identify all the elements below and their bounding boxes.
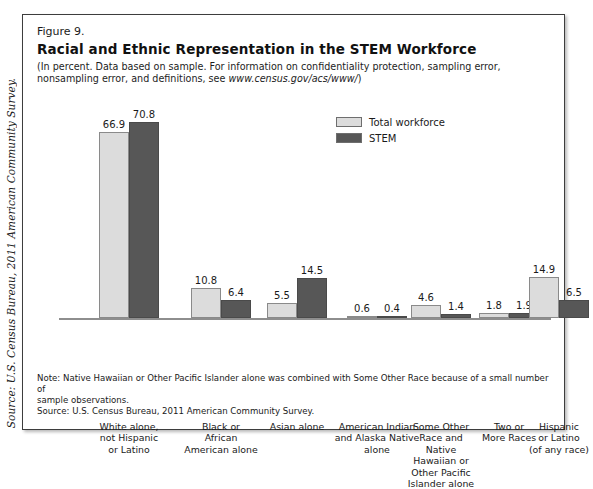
bar-value-label: 1.4 (448, 301, 464, 313)
x-axis-category-line: American alone (176, 444, 266, 455)
bar-group: 10.86.4 (191, 110, 251, 318)
figure-header: Figure 9. Racial and Ethnic Representati… (37, 25, 552, 85)
bar-rect (347, 316, 377, 318)
bar-rect (411, 305, 441, 318)
bar-value-label: 5.5 (274, 290, 290, 302)
bar-rect (267, 303, 297, 318)
x-axis-baseline (59, 318, 551, 320)
bar-total-workforce[interactable]: 5.5 (267, 303, 297, 318)
subtitle-line-2-post: ) (358, 73, 362, 84)
bar-value-label: 1.8 (486, 300, 502, 312)
bar-value-label: 70.8 (133, 109, 155, 121)
figure-number: Figure 9. (37, 25, 552, 39)
note-line-1: Note: Native Hawaiian or Other Pacific I… (37, 373, 552, 395)
subtitle-line-2-pre: and definitions, see (131, 73, 228, 84)
bar-stem[interactable]: 70.8 (129, 122, 159, 318)
bar-rect (479, 313, 509, 318)
bar-value-label: 0.4 (384, 303, 400, 315)
bar-rect (99, 132, 129, 318)
x-axis-category-line: (of any race) (514, 444, 593, 455)
side-source-text: Source: U.S. Census Bureau, 2011 America… (5, 78, 17, 428)
bar-value-label: 6.4 (228, 287, 244, 299)
note-line-2: sample observations. (37, 395, 552, 406)
bar-stem[interactable]: 6.5 (559, 300, 589, 318)
bar-value-label: 66.9 (103, 119, 125, 131)
bar-rect (221, 300, 251, 318)
figure-frame: Figure 9. Racial and Ethnic Representati… (22, 14, 565, 430)
bar-stem[interactable]: 6.4 (221, 300, 251, 318)
x-axis-category-line: White alone, (84, 421, 174, 432)
bar-total-workforce[interactable]: 66.9 (99, 132, 129, 318)
bar-group: 5.514.5 (267, 110, 327, 318)
x-axis-category-label: Asian alone (252, 421, 342, 432)
figure-notes: Note: Native Hawaiian or Other Pacific I… (37, 373, 552, 417)
bar-chart-plot-area: 66.970.8White alone,not Hispanicor Latin… (59, 110, 551, 320)
bar-total-workforce[interactable]: 4.6 (411, 305, 441, 318)
x-axis-category-line: African (176, 432, 266, 443)
x-axis-category-label: White alone,not Hispanicor Latino (84, 421, 174, 455)
bar-total-workforce[interactable]: 14.9 (529, 277, 559, 318)
bar-total-workforce[interactable]: 10.8 (191, 288, 221, 318)
bar-rect (441, 314, 471, 318)
page-title: Racial and Ethnic Representation in the … (37, 40, 552, 58)
x-axis-category-line: Hispanic (514, 421, 593, 432)
bar-group: 4.61.4 (411, 110, 471, 318)
bar-value-label: 14.9 (533, 264, 555, 276)
bar-group: 0.60.4 (347, 110, 407, 318)
bar-stem[interactable]: 0.4 (377, 316, 407, 318)
bar-rect (559, 300, 589, 318)
bar-value-label: 14.5 (301, 265, 323, 277)
bar-rect (297, 278, 327, 318)
bar-group: 14.96.5 (529, 110, 589, 318)
bar-stem[interactable]: 1.4 (441, 314, 471, 318)
x-axis-category-line: or Latino (84, 444, 174, 455)
bar-rect (377, 316, 407, 318)
bar-total-workforce[interactable]: 0.6 (347, 316, 377, 318)
x-axis-category-line: Hawaiian or (396, 455, 486, 466)
x-axis-category-line: not Hispanic (84, 432, 174, 443)
bar-group: 66.970.8 (99, 110, 159, 318)
x-axis-category-line: Islander alone (396, 478, 486, 489)
bar-value-label: 6.5 (566, 287, 582, 299)
source-line: Source: U.S. Census Bureau, 2011 America… (37, 406, 552, 417)
bar-value-label: 0.6 (354, 303, 370, 315)
bar-value-label: 10.8 (195, 275, 217, 287)
bar-stem[interactable]: 14.5 (297, 278, 327, 318)
figure-subtitle: (In percent. Data based on sample. For i… (37, 61, 537, 85)
x-axis-category-line: or Latino (514, 432, 593, 443)
census-url-link[interactable]: www.census.gov/acs/www/ (228, 73, 357, 84)
side-source-credit: Source: U.S. Census Bureau, 2011 America… (0, 118, 22, 428)
x-axis-category-label: Hispanicor Latino(of any race) (514, 421, 593, 455)
x-axis-category-line: Native (396, 444, 486, 455)
x-axis-category-line: Asian alone (252, 421, 342, 432)
bar-total-workforce[interactable]: 1.8 (479, 313, 509, 318)
bar-value-label: 4.6 (418, 292, 434, 304)
x-axis-category-line: Other Pacific (396, 467, 486, 478)
bar-rect (191, 288, 221, 318)
bar-rect (129, 122, 159, 318)
bar-rect (529, 277, 559, 318)
